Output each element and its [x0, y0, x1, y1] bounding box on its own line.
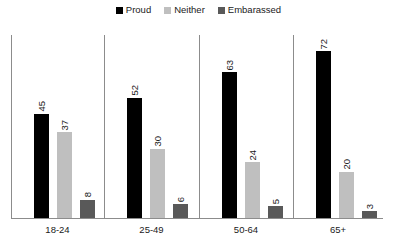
bar-proud: 52	[127, 85, 142, 218]
bar-value-label: 37	[60, 120, 70, 131]
bar-proud: 63	[222, 60, 237, 218]
bar-chart: Proud Neither Embarassed 45 37	[0, 0, 397, 242]
bar-rect-proud	[222, 72, 237, 218]
bar-value-label: 6	[176, 197, 186, 202]
bar-embarassed: 6	[173, 197, 188, 218]
bar-rect-proud	[34, 114, 49, 218]
category-label: 50-64	[199, 224, 293, 235]
bar-rect-embarassed	[80, 200, 95, 219]
bar-group-25-49: 52 30 6 25-49	[104, 35, 199, 242]
bar-group-65plus: 72 20 3 65+	[293, 35, 383, 242]
bar-group-bars: 45 37 8	[11, 35, 104, 218]
bar-embarassed: 5	[268, 199, 283, 218]
plot-area: 45 37 8 18-24 52	[0, 0, 397, 242]
bar-value-label: 45	[37, 101, 47, 112]
bar-rect-proud	[127, 98, 142, 219]
bar-rect-neither	[150, 149, 165, 219]
bar-group-bars: 63 24 5	[199, 35, 293, 218]
bar-group-bars: 52 30 6	[104, 35, 199, 218]
bar-rect-neither	[339, 172, 354, 218]
category-label: 25-49	[104, 224, 199, 235]
bar-group-18-24: 45 37 8 18-24	[11, 35, 104, 242]
bar-neither: 30	[150, 136, 165, 218]
bar-rect-embarassed	[362, 211, 377, 218]
bar-neither: 24	[245, 150, 260, 218]
bar-rect-proud	[316, 51, 331, 218]
bar-rect-neither	[57, 132, 72, 218]
bar-embarassed: 8	[80, 192, 95, 218]
bar-value-label: 52	[130, 85, 140, 96]
bar-proud: 45	[34, 101, 49, 218]
bar-neither: 20	[339, 159, 354, 218]
bar-group-50-64: 63 24 5 50-64	[199, 35, 293, 242]
bar-rect-embarassed	[268, 206, 283, 218]
bar-rect-embarassed	[173, 204, 188, 218]
bar-value-label: 20	[342, 159, 352, 170]
bar-value-label: 72	[319, 39, 329, 50]
bar-rect-neither	[245, 162, 260, 218]
bar-value-label: 8	[83, 192, 93, 197]
bar-value-label: 24	[248, 150, 258, 161]
bar-proud: 72	[316, 39, 331, 218]
category-label: 65+	[293, 224, 383, 235]
bar-neither: 37	[57, 120, 72, 218]
bar-value-label: 5	[271, 199, 281, 204]
bar-value-label: 30	[153, 136, 163, 147]
bar-embarassed: 3	[362, 204, 377, 218]
bar-value-label: 3	[365, 204, 375, 209]
category-label: 18-24	[11, 224, 104, 235]
bar-group-bars: 72 20 3	[293, 35, 383, 218]
bar-value-label: 63	[225, 60, 235, 71]
